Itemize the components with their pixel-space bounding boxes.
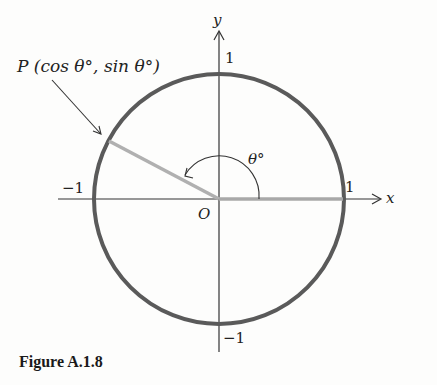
unit-circle-diagram: P (cos θ°, sin θ°) θ° O x y 1 −1 1 −1	[0, 0, 437, 385]
figure-caption: Figure A.1.8	[19, 353, 103, 371]
angle-label: θ°	[248, 150, 265, 168]
pointer-line	[52, 80, 100, 133]
radius-to-p	[109, 141, 219, 199]
y-axis-label: y	[212, 11, 222, 29]
tick-label-y-pos: 1	[225, 49, 235, 67]
tick-label-x-pos: 1	[345, 178, 355, 196]
x-axis-label: x	[386, 189, 395, 207]
origin-label: O	[198, 205, 210, 223]
tick-label-y-neg: −1	[223, 329, 245, 347]
tick-label-x-neg: −1	[62, 179, 84, 197]
point-label: P (cos θ°, sin θ°)	[16, 56, 160, 76]
